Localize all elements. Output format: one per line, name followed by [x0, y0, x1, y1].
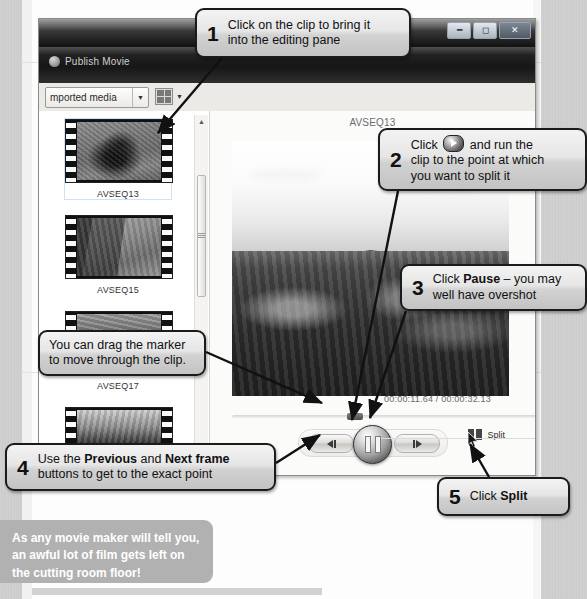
clip-frame-image [77, 218, 161, 276]
callout-step-3: 3 Click Pause – you maywell have oversho… [400, 264, 587, 311]
previous-frame-icon [327, 440, 333, 448]
callout-step-4: 4 Use the Previous and Next framebuttons… [5, 443, 276, 491]
clip-label: AVSEQ17 [65, 381, 171, 391]
film-perforations-right [162, 216, 172, 278]
library-clip-item[interactable]: AVSEQ13 [65, 119, 171, 199]
publish-movie-menu[interactable]: Publish Movie [49, 56, 130, 67]
next-frame-button[interactable] [394, 434, 440, 453]
previous-frame-bar-icon [334, 440, 336, 448]
seek-marker-handle[interactable] [347, 413, 363, 420]
mouse-cursor-icon [468, 432, 479, 448]
maximize-icon[interactable]: ◻ [473, 22, 497, 39]
tip-underbar [32, 588, 322, 595]
preview-clip-name: AVSEQ13 [210, 117, 535, 128]
seek-bar[interactable] [232, 411, 536, 421]
pause-icon-bar [375, 436, 381, 453]
minimize-icon[interactable]: ━ [447, 22, 471, 39]
callout-drag-marker: You can drag the markerto move through t… [38, 330, 206, 376]
callout-text: Click and run theclip to the point at wh… [411, 135, 544, 184]
tip-line: As any movie maker will tell you, [12, 530, 201, 547]
next-frame-icon [416, 440, 422, 448]
pause-button[interactable] [353, 425, 392, 464]
video-cloud [250, 169, 320, 181]
page-left-margin-inner [22, 0, 32, 599]
film-perforations-left [66, 120, 76, 182]
seek-track[interactable] [232, 415, 536, 418]
clip-label: AVSEQ13 [65, 189, 171, 199]
film-perforations-left [66, 216, 76, 278]
library-clip-item[interactable]: AVSEQ15 [65, 215, 171, 295]
view-options-button[interactable]: ▼ [155, 88, 183, 105]
callout-number: 2 [390, 149, 402, 170]
timecode-display: 00:00:11.64 / 00:00:32.13 [384, 394, 491, 404]
chevron-down-icon: ▼ [176, 93, 183, 100]
transport-controls [298, 429, 448, 457]
library-toolbar: mported media ▼ ▼ [39, 83, 535, 112]
film-perforations-right [162, 120, 172, 182]
scroll-up-icon[interactable]: ▲ [195, 115, 208, 127]
callout-text: Use the Previous and Next framebuttons t… [38, 452, 230, 483]
pause-icon-bar [365, 436, 371, 453]
tip-line: an awful lot of film gets left on [12, 547, 201, 564]
callout-number: 5 [449, 486, 461, 507]
window-controls: ━ ◻ ✕ [447, 22, 531, 39]
previous-frame-button[interactable] [308, 434, 354, 453]
grid-view-icon [155, 88, 173, 105]
clip-label: AVSEQ15 [65, 285, 171, 295]
callout-step-1: 1 Click on the clip to bring itinto the … [195, 8, 411, 58]
publish-movie-icon [49, 56, 60, 67]
callout-number: 4 [17, 457, 29, 478]
library-scrollbar[interactable]: ▲ [194, 115, 208, 473]
close-icon[interactable]: ✕ [499, 22, 531, 39]
play-icon [443, 135, 464, 152]
tip-line: the cutting room floor! [12, 565, 201, 582]
page-left-margin [0, 0, 22, 599]
clip-frame-image [77, 122, 161, 180]
imported-media-dropdown[interactable]: mported media ▼ [45, 87, 149, 108]
chevron-down-icon: ▼ [132, 88, 148, 107]
next-frame-bar-icon [413, 440, 415, 448]
clip-thumbnail [65, 215, 173, 279]
preview-divider [381, 438, 536, 439]
callout-number: 3 [412, 277, 424, 298]
tip-callout: As any movie maker will tell you, an awf… [0, 520, 213, 583]
clip-thumbnail [65, 119, 173, 183]
callout-number: 1 [207, 23, 219, 44]
media-library-pane[interactable]: AVSEQ13 AVSEQ15 AVSEQ17 [39, 111, 210, 475]
publish-movie-label: Publish Movie [65, 56, 130, 67]
callout-step-5: 5 Click Split [437, 477, 570, 516]
callout-text: Click on the clip to bring itinto the ed… [228, 18, 370, 49]
callout-text: Click Split [470, 489, 528, 504]
scrollbar-grip-icon [198, 233, 205, 238]
movie-maker-window: ━ ◻ ✕ Publish Movie mported media ▼ ▼ [38, 18, 536, 476]
callout-text: You can drag the markerto move through t… [49, 338, 186, 369]
callout-text: Click Pause – you maywell have overshot [433, 272, 562, 303]
callout-step-2: 2 Click and run theclip to the point at … [378, 128, 587, 191]
imported-media-value: mported media [46, 92, 117, 103]
